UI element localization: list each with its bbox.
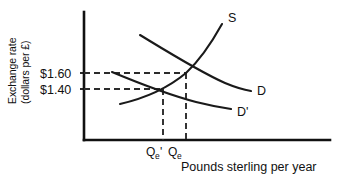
y-axis-label-line1: Exchange rate	[6, 37, 18, 104]
y-axis-label: Exchange rate (dollars per £)	[6, 37, 31, 104]
y-tick-labels: $1.60 $1.40	[40, 67, 71, 97]
x-axis-title: Pounds sterling per year	[181, 160, 317, 174]
qe-prime-mark: '	[160, 145, 162, 159]
supply-curve	[120, 24, 222, 104]
qe-prime-base: Q	[146, 145, 155, 159]
y-axis-label-line2: (dollars per £)	[19, 41, 31, 104]
curve-labels: S D D'	[228, 11, 266, 119]
supply-curve-label: S	[228, 11, 236, 25]
quantity-guide-lines	[163, 73, 186, 140]
demand-curve-label: D	[257, 84, 266, 98]
exchange-rate-supply-demand-figure: Exchange rate (dollars per £) $1.60 $1.4…	[0, 0, 342, 180]
x-tick-label-qe: Q e	[168, 145, 182, 161]
qe-base: Q	[168, 145, 177, 159]
y-tick-label-160: $1.60	[40, 67, 71, 81]
x-tick-label-qe-prime: Q e '	[146, 145, 162, 161]
x-tick-labels: Q e ' Q e	[146, 145, 182, 161]
demand-shifted-curve-label: D'	[237, 105, 248, 119]
y-tick-label-140: $1.40	[40, 83, 71, 97]
